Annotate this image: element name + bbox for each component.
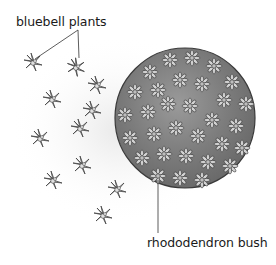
illustration <box>0 0 276 265</box>
rhododendron-bush <box>115 48 255 188</box>
bluebell-plants-label: bluebell plants <box>16 14 106 29</box>
rhododendron-bush-label: rhododendron bush <box>147 235 268 250</box>
